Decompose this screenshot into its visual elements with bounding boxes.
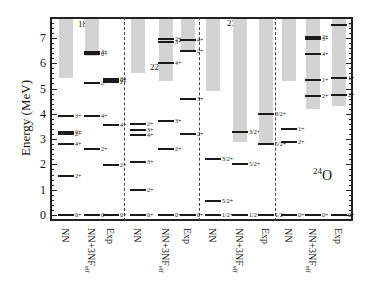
minor-tick — [51, 78, 54, 79]
energy-level — [180, 133, 196, 135]
energy-level — [158, 148, 174, 150]
major-tick — [346, 164, 352, 165]
minor-tick — [51, 124, 54, 125]
energy-level — [180, 39, 196, 41]
level-spin-label: 0+ — [322, 212, 328, 218]
column-label: NN — [207, 228, 218, 242]
energy-level — [130, 214, 146, 216]
energy-level — [232, 163, 248, 165]
energy-level — [84, 82, 100, 84]
energy-level — [58, 214, 74, 216]
energy-level — [84, 51, 100, 53]
minor-tick — [51, 109, 54, 110]
y-tick-label: 3 — [34, 133, 46, 145]
major-tick — [346, 139, 352, 140]
minor-tick — [349, 129, 352, 130]
column-label: NN — [132, 228, 143, 242]
minor-tick — [51, 43, 54, 44]
energy-level — [130, 123, 146, 125]
level-spin-label: 0+ — [348, 212, 354, 218]
level-spin-label: 3/2+ — [275, 111, 286, 117]
level-spin-label: 2+ — [75, 173, 81, 179]
energy-level — [158, 62, 174, 64]
energy-level — [305, 36, 321, 38]
minor-tick — [349, 104, 352, 105]
energy-level — [305, 95, 321, 97]
level-spin-label: 5/2+ — [249, 161, 260, 167]
energy-level — [130, 129, 146, 131]
major-tick — [51, 38, 57, 39]
energy-level — [205, 158, 221, 160]
panel-divider — [275, 17, 276, 221]
energy-level — [331, 214, 347, 216]
level-spin-label: 2+ — [175, 146, 181, 152]
minor-tick — [349, 33, 352, 34]
level-spin-label: 4+ — [197, 37, 203, 43]
level-spin-label: 4+ — [75, 141, 81, 147]
column-label: Exp — [260, 228, 271, 244]
energy-level — [103, 164, 119, 166]
level-spin-label: 3+ — [147, 127, 153, 133]
column-label: NN — [283, 228, 294, 242]
major-tick — [346, 190, 352, 191]
energy-level — [180, 214, 196, 216]
energy-level — [84, 53, 100, 55]
level-spin-label: 2+ — [197, 131, 203, 137]
minor-tick — [349, 43, 352, 44]
minor-tick — [349, 154, 352, 155]
continuum-band — [181, 19, 195, 51]
minor-tick — [349, 205, 352, 206]
minor-tick — [51, 68, 54, 69]
level-spin-label: 2+ — [197, 48, 203, 54]
energy-level — [232, 131, 248, 133]
major-tick — [346, 114, 352, 115]
level-spin-label: 3+ — [101, 49, 107, 55]
continuum-band — [259, 19, 273, 144]
minor-tick — [51, 58, 54, 59]
energy-level — [180, 50, 196, 52]
major-tick — [51, 215, 57, 216]
major-tick — [346, 63, 352, 64]
major-tick — [51, 89, 57, 90]
minor-tick — [349, 68, 352, 69]
level-spin-label: 2+ — [348, 92, 354, 98]
panel-divider — [124, 17, 125, 221]
level-spin-label: 0+ — [120, 212, 126, 218]
continuum-band — [206, 19, 220, 91]
minor-tick — [349, 58, 352, 59]
minor-tick — [51, 159, 54, 160]
major-tick — [51, 114, 57, 115]
minor-tick — [51, 200, 54, 201]
energy-level — [58, 115, 74, 117]
continuum-band — [131, 19, 145, 73]
level-spin-label: 3+ — [197, 96, 203, 102]
minor-tick — [349, 119, 352, 120]
level-spin-label: 3+ — [147, 159, 153, 165]
energy-level — [84, 214, 100, 216]
column-label: Exp — [105, 228, 116, 244]
level-spin-label: 0+ — [75, 129, 81, 135]
level-spin-label: 1+ — [348, 75, 354, 81]
major-tick — [51, 63, 57, 64]
level-spin-label: 4+ — [322, 51, 328, 57]
y-tick-label: 1 — [34, 184, 46, 196]
minor-tick — [51, 129, 54, 130]
column-label: Exp — [333, 228, 344, 244]
energy-level — [158, 41, 174, 43]
energy-level — [258, 214, 274, 216]
minor-tick — [349, 210, 352, 211]
energy-level — [158, 120, 174, 122]
minor-tick — [349, 200, 352, 201]
column-label: NN+3NFeff — [232, 228, 245, 272]
level-spin-label: 1+ — [322, 77, 328, 83]
minor-tick — [349, 185, 352, 186]
minor-tick — [349, 159, 352, 160]
energy-level — [281, 128, 297, 130]
y-tick-label: 7 — [34, 32, 46, 44]
minor-tick — [349, 180, 352, 181]
minor-tick — [51, 119, 54, 120]
minor-tick — [349, 48, 352, 49]
y-tick-label: 6 — [34, 57, 46, 69]
energy-level — [331, 24, 347, 26]
energy-level-figure: Energy (MeV) 0123456718O0+2+4+2+0+3+NN0+… — [0, 0, 371, 285]
